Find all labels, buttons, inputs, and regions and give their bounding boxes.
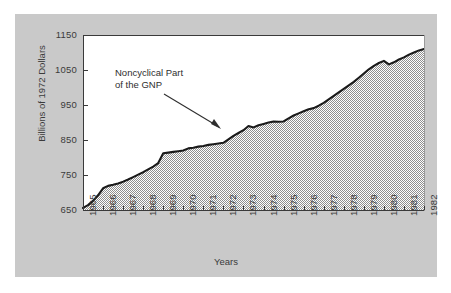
y-tick-label-750: 750	[21, 170, 77, 180]
x-tick-mark-1968	[143, 206, 144, 210]
x-tick-label-1978: 1978	[348, 194, 359, 216]
x-tick-mark-1973	[243, 206, 244, 210]
plot-right-border	[424, 35, 425, 211]
x-tick-mark-1978	[344, 206, 345, 210]
y-tick-mark-950	[84, 105, 88, 106]
y-tick-label-850: 850	[21, 135, 77, 145]
x-tick-label-1969: 1969	[167, 194, 178, 216]
y-tick-label-650: 650	[21, 205, 77, 215]
x-tick-label-1970: 1970	[187, 194, 198, 216]
x-tick-label-1980: 1980	[388, 194, 399, 216]
x-tick-mark-1975	[284, 206, 285, 210]
x-tick-label-1975: 1975	[288, 194, 299, 216]
y-axis-line	[83, 35, 84, 211]
x-tick-label-1977: 1977	[328, 194, 339, 216]
x-tick-mark-1971	[203, 206, 204, 210]
annotation-noncyclical-gnp: Noncyclical Part of the GNP	[115, 67, 183, 90]
x-axis-label: Years	[15, 256, 437, 267]
x-tick-label-1965: 1965	[87, 194, 98, 216]
data-area-series	[83, 35, 424, 211]
x-tick-label-1974: 1974	[268, 194, 279, 216]
y-tick-label-950: 950	[21, 100, 77, 110]
y-tick-mark-750	[84, 175, 88, 176]
x-tick-mark-1967	[123, 206, 124, 210]
y-tick-mark-1050	[84, 70, 88, 71]
y-tick-mark-850	[84, 140, 88, 141]
x-tick-label-1973: 1973	[247, 194, 258, 216]
x-tick-label-1982: 1982	[428, 194, 439, 216]
x-tick-mark-1977	[324, 206, 325, 210]
y-tick-label-1050: 1050	[21, 65, 77, 75]
x-tick-mark-1974	[264, 206, 265, 210]
annotation-line-2: of the GNP	[115, 79, 183, 91]
x-tick-label-1968: 1968	[147, 194, 158, 216]
x-tick-label-1971: 1971	[207, 194, 218, 216]
x-tick-label-1972: 1972	[227, 194, 238, 216]
x-tick-mark-1979	[364, 206, 365, 210]
x-tick-label-1976: 1976	[308, 194, 319, 216]
x-tick-mark-1972	[223, 206, 224, 210]
x-tick-mark-1982	[424, 206, 425, 210]
x-tick-mark-1966	[103, 206, 104, 210]
y-tick-label-1150: 1150	[21, 30, 77, 40]
x-tick-mark-1981	[404, 206, 405, 210]
x-tick-mark-1969	[163, 206, 164, 210]
x-tick-label-1966: 1966	[107, 194, 118, 216]
y-tick-mark-1150	[84, 35, 88, 36]
annotation-line-1: Noncyclical Part	[115, 67, 183, 79]
x-tick-label-1979: 1979	[368, 194, 379, 216]
plot-top-border	[83, 35, 425, 36]
chart-figure: Billions of 1972 Dollars 650750850950105…	[15, 14, 437, 277]
x-tick-label-1967: 1967	[127, 194, 138, 216]
x-tick-label-1981: 1981	[408, 194, 419, 216]
x-tick-mark-1970	[183, 206, 184, 210]
x-tick-mark-1976	[304, 206, 305, 210]
x-tick-mark-1965	[83, 206, 84, 210]
x-tick-mark-1980	[384, 206, 385, 210]
